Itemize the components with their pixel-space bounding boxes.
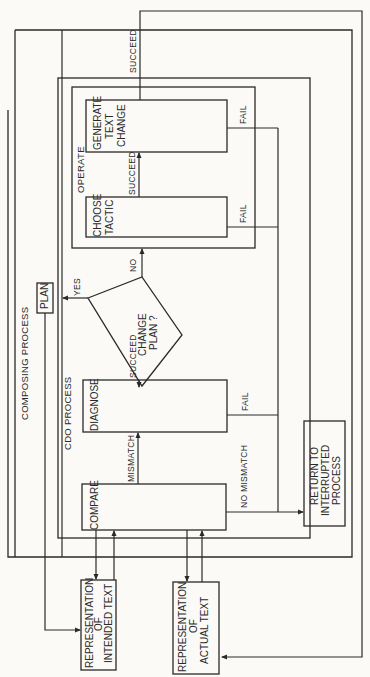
diagnose-label: DIAGNOSE	[89, 378, 100, 431]
choose-tactic-node: CHOOSE TACTIC	[86, 193, 227, 237]
change-plan-line1: CHANGE	[137, 313, 148, 356]
composing-process-label: COMPOSING PROCESS	[19, 307, 30, 420]
actual-line1: REPRESENTATION	[177, 582, 188, 672]
svg-text:ACTUAL TEXT: ACTUAL TEXT	[199, 597, 210, 664]
generate-fail-label: FAIL	[238, 105, 248, 124]
diagnose-fail-label: FAIL	[240, 392, 250, 411]
svg-text:CHANGE: CHANGE	[116, 104, 127, 147]
choose-line1: CHOOSE	[92, 193, 103, 237]
yes-label: YES	[72, 278, 82, 296]
svg-text:CHANGE: CHANGE	[137, 313, 148, 356]
return-line2: INTERRUPTED	[320, 445, 331, 516]
generate-line2: TEXT	[104, 113, 115, 139]
svg-text:RETURN TO: RETURN TO	[309, 447, 320, 505]
svg-text:INTENDED TEXT: INTENDED TEXT	[103, 584, 114, 663]
generate-line1: GENERATE	[92, 95, 103, 150]
svg-text:REPRESENTATION: REPRESENTATION	[177, 582, 188, 672]
cdo-process-label: CDO PROCESS	[62, 376, 73, 450]
intended-line3: INTENDED TEXT	[103, 584, 114, 663]
tactic-fail-label: FAIL	[238, 204, 248, 223]
generate-succeed-label: SUCCEED	[128, 29, 138, 73]
plan-node: PLAN	[37, 283, 53, 313]
cdo-process-flowchart: COMPOSING PROCESS CDO PROCESS OPERATE GE…	[0, 0, 370, 677]
return-line3: PROCESS	[331, 456, 342, 505]
svg-text:INTERRUPTED: INTERRUPTED	[320, 445, 331, 516]
operate-label: OPERATE	[75, 146, 86, 193]
mismatch-label: MISMATCH	[126, 435, 136, 482]
composing-process-container: COMPOSING PROCESS	[8, 30, 352, 557]
actual-line3: ACTUAL TEXT	[199, 597, 210, 664]
svg-text:DIAGNOSE: DIAGNOSE	[89, 378, 100, 431]
fail-paths	[226, 128, 303, 512]
plan-label: PLAN	[39, 283, 50, 309]
tactic-succeed-label: SUCCEED	[127, 151, 137, 195]
choose-line2: TACTIC	[104, 200, 115, 235]
no-label: NO	[128, 259, 138, 272]
generate-line3: CHANGE	[116, 104, 127, 147]
svg-text:TEXT: TEXT	[104, 113, 115, 139]
return-line1: RETURN TO	[309, 447, 320, 505]
svg-text:COMPARE: COMPARE	[89, 480, 100, 530]
actual-line2: OF	[188, 619, 199, 633]
no-mismatch-label: NO MISMATCH	[239, 445, 249, 508]
diagnose-node: DIAGNOSE	[83, 378, 227, 432]
intended-text-node: REPRESENTATION OF INTENDED TEXT	[81, 578, 116, 670]
svg-text:CHOOSE: CHOOSE	[92, 193, 103, 237]
change-plan-line2: PLAN ?	[148, 315, 159, 350]
compare-label: COMPARE	[89, 480, 100, 530]
generate-text-change-node: GENERATE TEXT CHANGE	[86, 95, 227, 152]
compare-node: COMPARE	[82, 480, 226, 530]
svg-text:PLAN ?: PLAN ?	[148, 315, 159, 350]
svg-text:PROCESS: PROCESS	[331, 456, 342, 505]
svg-text:PLAN: PLAN	[39, 283, 50, 309]
diagnose-succeed-label: SUCCEED	[128, 334, 138, 378]
generate-succeed-return-path	[140, 11, 362, 657]
svg-text:GENERATE: GENERATE	[92, 95, 103, 150]
svg-text:TACTIC: TACTIC	[104, 200, 115, 235]
svg-text:OF: OF	[188, 619, 199, 633]
actual-text-node: REPRESENTATION OF ACTUAL TEXT	[173, 582, 219, 674]
